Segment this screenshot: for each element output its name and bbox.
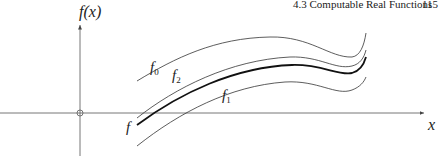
- label-f0: f0: [150, 60, 159, 77]
- label-f: f: [126, 120, 130, 135]
- y-axis-label: f(x): [79, 4, 101, 20]
- label-f1: f1: [222, 88, 231, 105]
- function-approximation-figure: [0, 0, 440, 156]
- curve-f1: [137, 77, 366, 146]
- label-f2: f2: [172, 68, 181, 85]
- x-axis-label: x: [428, 117, 435, 133]
